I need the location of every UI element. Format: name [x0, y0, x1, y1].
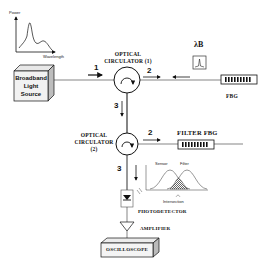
c2-port-3-number: 3	[117, 164, 121, 173]
c1-port-2-number: 2	[147, 66, 151, 75]
light-source-line-2: Light	[14, 82, 48, 90]
circulator-1-label-line-2: CIRCULATOR (1)	[102, 58, 154, 65]
bragg-wavelength-symbol: λB	[194, 40, 203, 49]
diagram-canvas	[0, 0, 263, 272]
circulator-1-label: OPTICAL CIRCULATOR (1)	[102, 51, 154, 65]
bragg-reflection-box	[193, 56, 206, 69]
fbg-sensor	[196, 75, 257, 84]
c2-port-2-number: 2	[148, 128, 152, 137]
overlap-spectrum-plot	[146, 165, 208, 197]
circulator-1-label-line-1: OPTICAL	[102, 51, 154, 58]
circulator-2-label-line-2: CIRCULATOR (2)	[72, 139, 116, 153]
port-1-number: 1	[94, 63, 98, 72]
light-source-line-1: Broadband	[14, 74, 48, 82]
photodetector-label: PHOTODETECTOR	[138, 208, 187, 215]
light-source-line-3: Source	[14, 90, 48, 98]
fbg-label: FBG	[226, 93, 238, 100]
circulator-2-label-line-1: OPTICAL	[72, 132, 116, 139]
optical-circulator-1	[114, 67, 140, 93]
photodetector	[121, 188, 142, 207]
intersection-label: Intersection	[163, 199, 184, 204]
filter-curve-label: Filter	[180, 161, 189, 166]
optical-circulator-2	[116, 133, 138, 155]
amplifier-label: AMPLIFIER	[140, 225, 170, 232]
filter-fbg-label: FILTER FBG	[177, 129, 218, 136]
c1-port-3-number: 3	[114, 101, 118, 110]
sensor-curve-label: Sensor	[155, 161, 168, 166]
spectrum-inset	[16, 17, 55, 52]
circulator-2-label: OPTICAL CIRCULATOR (2)	[72, 132, 116, 153]
light-source-label: Broadband Light Source	[14, 74, 48, 98]
filter-fbg	[178, 140, 243, 149]
power-axis-label: Power	[9, 10, 20, 15]
amplifier	[120, 222, 134, 231]
wavelength-axis-label: Wavelength	[43, 54, 64, 59]
oscilloscope-label: OSCILLOSCOPE	[101, 246, 153, 253]
